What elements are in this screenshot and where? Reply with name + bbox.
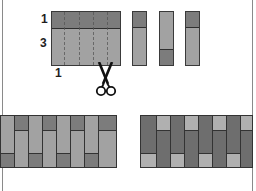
cut-segment-3	[185, 11, 200, 66]
cut-line	[93, 12, 94, 65]
label-top-band-width: 1	[41, 13, 48, 25]
narrow-dark-band	[52, 12, 120, 28]
scissors-icon	[94, 62, 118, 98]
assembled-row-left	[0, 115, 117, 168]
seam-line	[52, 28, 120, 29]
cut-line	[64, 12, 65, 65]
label-cut-width: 1	[55, 67, 62, 79]
cut-segment-1	[132, 11, 147, 66]
assembled-row-right	[140, 115, 253, 168]
seam-line	[160, 49, 173, 50]
strip-set-block	[51, 11, 121, 66]
segment-dark-top	[133, 12, 146, 27]
segment-dark-top	[186, 12, 199, 27]
cut-line	[79, 12, 80, 65]
cut-segment-2	[159, 11, 174, 66]
seam-line	[186, 27, 199, 28]
seam-line	[133, 27, 146, 28]
segment-dark-bottom	[160, 50, 173, 65]
label-bottom-band-width: 3	[40, 37, 47, 49]
cut-line	[107, 12, 108, 65]
